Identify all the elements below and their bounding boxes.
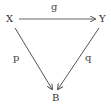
node-x: X [6, 14, 13, 24]
node-b: B [52, 93, 59, 103]
edge-label-g: g [51, 2, 57, 12]
node-y: Y [99, 14, 106, 24]
arrow-x-to-b [15, 28, 52, 89]
arrow-y-to-b [58, 28, 99, 89]
edge-label-q: q [85, 53, 91, 63]
edge-label-p: p [13, 53, 19, 63]
